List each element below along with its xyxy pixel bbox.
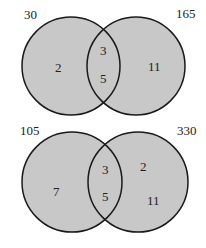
intersection-value: 3 bbox=[100, 43, 107, 58]
right-set-label: 330 bbox=[177, 123, 197, 138]
intersection-value: 3 bbox=[102, 162, 109, 177]
right-set-label: 165 bbox=[176, 6, 196, 21]
intersection-value: 5 bbox=[100, 71, 107, 86]
venn-diagrams: 30 165 2 3 5 11 105 330 7 3 5 2 11 bbox=[0, 0, 206, 248]
left-set-label: 30 bbox=[24, 7, 37, 22]
right-only-value: 2 bbox=[140, 159, 147, 174]
intersection-value: 5 bbox=[102, 189, 109, 204]
right-only-value: 11 bbox=[147, 193, 160, 208]
left-only-value: 2 bbox=[55, 60, 62, 75]
left-only-value: 7 bbox=[53, 184, 60, 199]
right-only-value: 11 bbox=[148, 59, 161, 74]
left-set-label: 105 bbox=[20, 123, 40, 138]
venn-diagram-top: 30 165 2 3 5 11 bbox=[22, 6, 196, 115]
venn-diagram-bottom: 105 330 7 3 5 2 11 bbox=[20, 123, 197, 232]
